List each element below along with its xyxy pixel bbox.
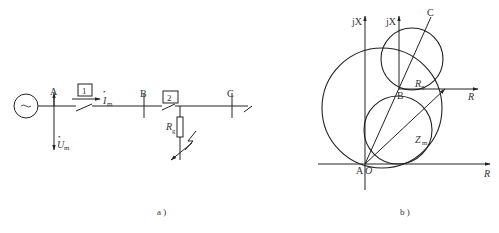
svg-text:Z: Z xyxy=(415,134,421,145)
svg-text:g: g xyxy=(172,127,176,135)
main-y-axis-label: jX xyxy=(351,16,363,27)
line-end-tick xyxy=(244,106,252,112)
bus-a-label: A xyxy=(50,86,58,97)
point-b-label: B xyxy=(397,90,404,101)
impedance-label: Z m xyxy=(415,134,428,147)
caption-b: b ) xyxy=(400,207,410,217)
fault-resistor xyxy=(177,117,183,137)
current-label: • I m xyxy=(102,88,113,108)
generator-sine-icon xyxy=(21,105,31,107)
diagram-canvas: A B C 1 2 • I m • U m R g a ) jX jX R R … xyxy=(0,0,499,233)
svg-text:m: m xyxy=(422,139,428,147)
bus-b-label: B xyxy=(140,88,147,99)
svg-text:g: g xyxy=(421,83,425,91)
svg-text:m: m xyxy=(107,100,113,108)
point-a-label: A xyxy=(356,165,364,176)
main-x-axis-label: R xyxy=(483,168,490,179)
breaker-2-icon xyxy=(162,104,175,110)
svg-text:m: m xyxy=(64,144,70,152)
measured-impedance-vector xyxy=(365,89,445,164)
origin-o-label: O xyxy=(365,165,372,176)
relay-1-label: 1 xyxy=(82,86,87,96)
small-characteristic-circle xyxy=(364,96,432,164)
caption-a: a ) xyxy=(157,207,166,217)
impedance-plane xyxy=(318,16,490,190)
relay-2-label: 2 xyxy=(167,93,172,103)
voltage-label: • U m xyxy=(57,133,70,152)
shifted-x-axis-label: R xyxy=(467,91,474,102)
shifted-y-axis-label: jX xyxy=(385,16,397,27)
point-c-label: C xyxy=(427,7,434,18)
bus-c-label: C xyxy=(227,88,234,99)
breaker-1-icon xyxy=(76,104,92,111)
fault-resistance-label: R g xyxy=(165,121,176,135)
